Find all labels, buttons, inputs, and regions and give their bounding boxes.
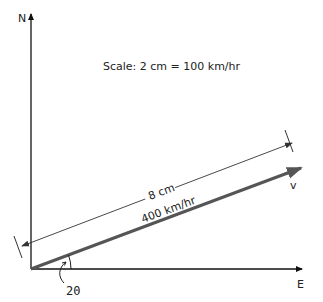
east-label: E <box>297 278 304 291</box>
drawn-length-label: 8 cm <box>146 181 176 203</box>
angle-label: 20 <box>66 284 80 298</box>
vector-label: v <box>290 179 297 192</box>
dimension-tick-start <box>14 236 22 258</box>
north-label: N <box>18 12 26 25</box>
scale-text: Scale: 2 cm = 100 km/hr <box>103 60 241 73</box>
vector-diagram: N E Scale: 2 cm = 100 km/hr 8 cm v 400 k… <box>0 0 323 302</box>
dimension-tick-end <box>285 130 293 152</box>
